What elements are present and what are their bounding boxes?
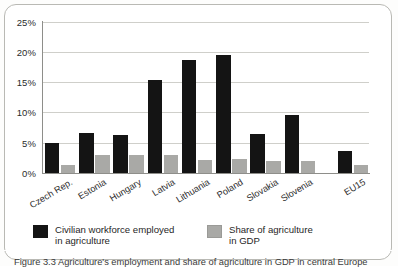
bar [79, 133, 94, 173]
bar [250, 134, 265, 173]
bar [148, 80, 163, 173]
bar [113, 135, 128, 173]
y-tick-10%: 10% [0, 107, 36, 118]
bar [182, 60, 197, 173]
bar [285, 115, 300, 173]
legend-item-gdp: Share of agriculture in GDP [207, 224, 313, 246]
y-tick-0%: 0% [0, 168, 36, 179]
y-tick-20%: 20% [0, 46, 36, 57]
bar [338, 151, 353, 173]
y-tick-5%: 5% [0, 137, 36, 148]
legend-label-gdp: Share of agriculture in GDP [229, 224, 313, 246]
bar [198, 160, 213, 173]
legend-item-workforce: Civilian workforce employed in agricultu… [33, 224, 174, 246]
bar [354, 165, 369, 173]
bar [164, 155, 179, 173]
bar [95, 155, 110, 173]
bars-container [42, 22, 369, 174]
bar [129, 155, 144, 173]
bar [301, 161, 316, 173]
legend-label-workforce: Civilian workforce employed in agricultu… [55, 224, 174, 246]
y-tick-15%: 15% [0, 77, 36, 88]
bar [232, 159, 247, 174]
y-tick-25%: 25% [0, 16, 36, 27]
legend-swatch-gray-icon [207, 225, 222, 238]
figure-divider [4, 250, 392, 251]
legend-swatch-black-icon [33, 225, 48, 238]
bar [45, 143, 60, 173]
bar [61, 165, 76, 174]
figure-caption: Figure 3.3 Agriculture's employment and … [14, 257, 390, 268]
bar [216, 55, 231, 173]
bar [266, 161, 281, 173]
